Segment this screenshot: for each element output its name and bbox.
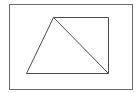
geometry-diagram — [0, 0, 137, 93]
diagonal-line — [54, 18, 109, 74]
trapezoid-shape — [27, 18, 109, 74]
